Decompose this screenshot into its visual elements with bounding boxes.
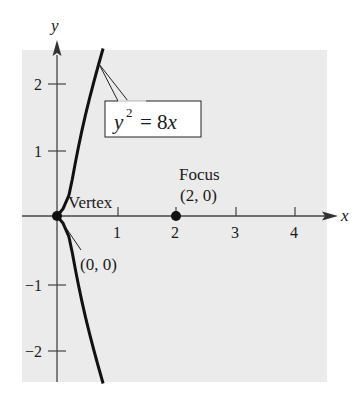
x-tick-label-4: 4 (290, 224, 298, 241)
x-axis-label: x (340, 206, 349, 225)
focus-coords: (2, 0) (180, 186, 217, 205)
focus-point (171, 211, 181, 221)
y-tick-label-neg2: −2 (25, 343, 42, 360)
equation-rhs-var: x (167, 110, 178, 134)
vertex-label: Vertex (68, 193, 113, 212)
equation-base: y (112, 110, 124, 134)
x-tick-label-2: 2 (171, 224, 179, 241)
vertex-coords: (0, 0) (80, 255, 117, 274)
x-tick-label-3: 3 (231, 224, 239, 241)
equation-rhs: = 8x (140, 110, 178, 134)
parabola-figure: y 2 = 8x y x 1 2 3 4 2 1 −1 −2 Vertex (0… (0, 0, 359, 404)
x-tick-label-1: 1 (113, 224, 121, 241)
y-axis-label: y (49, 16, 59, 35)
y-tick-label-1: 1 (34, 143, 42, 160)
y-tick-label-2: 2 (34, 76, 42, 93)
equation-exponent: 2 (126, 105, 133, 120)
y-tick-label-neg1: −1 (25, 277, 42, 294)
vertex-point (52, 211, 62, 221)
equation-rhs-text: = 8 (140, 110, 168, 134)
focus-label: Focus (179, 165, 220, 184)
